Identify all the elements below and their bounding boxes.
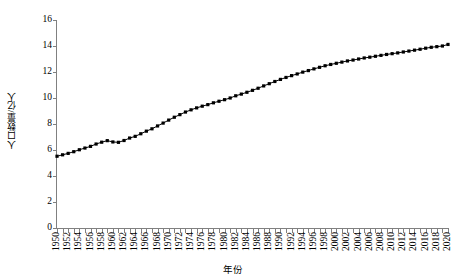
y-axis-tick-labels: 0246810121416 xyxy=(26,0,52,277)
series-marker xyxy=(379,54,382,57)
series-marker xyxy=(201,105,204,108)
series-marker xyxy=(184,110,187,113)
x-tick-label: 1966 xyxy=(141,232,150,251)
y-tick-mark xyxy=(53,124,57,125)
y-tick-mark xyxy=(53,150,57,151)
series-marker xyxy=(424,47,427,50)
x-tick-label: 2014 xyxy=(409,232,418,251)
x-tick-label: 1956 xyxy=(86,232,95,251)
series-marker xyxy=(279,78,282,81)
y-tick-mark xyxy=(53,98,57,99)
series-marker xyxy=(368,56,371,59)
series-marker xyxy=(357,57,360,60)
series-marker xyxy=(301,71,304,74)
y-tick-label: 14 xyxy=(28,41,52,50)
x-tick-label: 1984 xyxy=(242,232,251,251)
series-marker xyxy=(167,119,170,122)
series-marker xyxy=(55,155,58,158)
series-marker xyxy=(245,91,248,94)
series-marker xyxy=(441,44,444,47)
series-marker xyxy=(307,69,310,72)
x-tick-label: 1954 xyxy=(74,232,83,251)
population-line-chart: 人口数量/亿人 0246810121416 195019521954195619… xyxy=(0,0,466,277)
x-axis-title: 年份 xyxy=(0,262,466,276)
series-marker xyxy=(95,142,98,145)
x-tick-label: 1970 xyxy=(164,232,173,251)
population-series xyxy=(57,20,448,228)
x-tick-label: 1990 xyxy=(275,232,284,251)
series-marker xyxy=(374,55,377,58)
y-axis-title-label: 人口数量/亿人 xyxy=(4,92,17,149)
series-marker xyxy=(407,49,410,52)
x-tick-label: 2008 xyxy=(376,232,385,251)
series-marker xyxy=(262,84,265,87)
series-marker xyxy=(134,135,137,138)
series-marker xyxy=(217,100,220,103)
x-tick-label: 1958 xyxy=(97,232,106,251)
y-tick-mark xyxy=(53,72,57,73)
x-tick-label: 2016 xyxy=(421,232,430,251)
x-tick-label: 1978 xyxy=(208,232,217,251)
series-marker xyxy=(78,148,81,151)
y-tick-mark xyxy=(53,20,57,21)
series-marker xyxy=(195,106,198,109)
series-marker xyxy=(273,80,276,83)
series-marker xyxy=(234,94,237,97)
series-marker xyxy=(251,89,254,92)
series-marker xyxy=(156,124,159,127)
y-tick-label: 6 xyxy=(28,145,52,154)
series-marker xyxy=(83,146,86,149)
series-marker xyxy=(145,130,148,133)
x-tick-label: 2006 xyxy=(365,232,374,251)
series-marker xyxy=(139,132,142,135)
series-marker xyxy=(240,93,243,96)
x-tick-label: 1986 xyxy=(253,232,262,251)
x-tick-label: 1982 xyxy=(231,232,240,251)
series-marker xyxy=(296,72,299,75)
x-tick-label: 2002 xyxy=(342,232,351,251)
x-tick-label: 1992 xyxy=(287,232,296,251)
y-tick-label: 10 xyxy=(28,93,52,102)
y-tick-mark xyxy=(53,46,57,47)
y-tick-label: 16 xyxy=(28,15,52,24)
series-marker xyxy=(351,58,354,61)
series-marker xyxy=(61,153,64,156)
x-tick-label: 1988 xyxy=(264,232,273,251)
series-marker xyxy=(162,121,165,124)
series-marker xyxy=(396,51,399,54)
y-tick-mark xyxy=(53,176,57,177)
series-marker xyxy=(212,101,215,104)
series-marker xyxy=(312,67,315,70)
x-tick-label: 1950 xyxy=(52,232,61,251)
series-marker xyxy=(318,66,321,69)
x-tick-label: 1964 xyxy=(130,232,139,251)
series-marker xyxy=(363,56,366,59)
series-marker xyxy=(324,64,327,67)
series-marker xyxy=(413,49,416,52)
x-tick-label: 1974 xyxy=(186,232,195,251)
series-marker xyxy=(385,53,388,56)
x-tick-label: 1972 xyxy=(175,232,184,251)
x-tick-label: 1976 xyxy=(197,232,206,251)
y-axis-title: 人口数量/亿人 xyxy=(0,0,20,240)
series-line xyxy=(57,44,448,156)
x-tick-label: 2010 xyxy=(387,232,396,251)
x-tick-label: 1980 xyxy=(220,232,229,251)
series-marker xyxy=(111,140,114,143)
series-marker xyxy=(67,152,70,155)
y-tick-mark xyxy=(53,202,57,203)
x-tick-label: 1962 xyxy=(119,232,128,251)
series-marker xyxy=(268,82,271,85)
series-marker xyxy=(117,141,120,144)
series-marker xyxy=(223,98,226,101)
x-tick-label: 2018 xyxy=(432,232,441,251)
series-marker xyxy=(150,127,153,130)
series-marker xyxy=(391,52,394,55)
series-marker xyxy=(335,62,338,65)
x-axis-tick-labels: 1950195219541956195819601962196419661968… xyxy=(57,232,457,266)
series-marker xyxy=(418,48,421,51)
x-tick-label: 1994 xyxy=(298,232,307,251)
series-marker xyxy=(340,61,343,64)
y-tick-label: 4 xyxy=(28,171,52,180)
series-marker xyxy=(206,103,209,106)
